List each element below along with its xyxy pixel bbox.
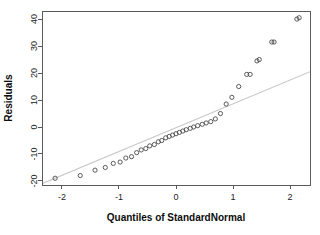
x-tick-label: 0 (173, 192, 178, 202)
data-point (213, 117, 217, 121)
qq-plot-figure: -2-1012-20-10010203040Quantiles of Stand… (0, 0, 320, 235)
data-point (218, 111, 222, 115)
data-point (230, 95, 234, 99)
data-point (196, 124, 200, 128)
data-point (78, 173, 82, 177)
y-tick-label: 40 (29, 14, 39, 24)
x-tick-label: -1 (115, 192, 123, 202)
y-tick-label: 10 (29, 95, 39, 105)
data-point (124, 156, 128, 160)
data-point (148, 144, 152, 148)
x-tick-label: 2 (288, 192, 293, 202)
data-point (103, 165, 107, 169)
data-point (118, 160, 122, 164)
plot-box-border (43, 12, 311, 186)
y-tick-label: 30 (29, 41, 39, 51)
x-tick-label: -2 (58, 192, 66, 202)
data-point (209, 120, 213, 124)
data-point (135, 151, 139, 155)
data-point (129, 155, 133, 159)
qq-plot-canvas: -2-1012-20-10010203040Quantiles of Stand… (0, 0, 320, 235)
data-point (224, 102, 228, 106)
y-tick-label: -10 (29, 147, 39, 160)
y-tick-label: 20 (29, 68, 39, 78)
data-point-group (53, 16, 301, 181)
x-tick-label: 1 (231, 192, 236, 202)
qq-reference-line (42, 72, 310, 184)
data-point (152, 142, 156, 146)
data-point (144, 146, 148, 150)
data-point (111, 161, 115, 165)
y-axis-title: Residuals (3, 74, 14, 122)
y-tick-label: 0 (29, 124, 39, 129)
data-point (139, 148, 143, 152)
y-tick-label: -20 (29, 174, 39, 187)
data-point (204, 121, 208, 125)
x-axis-title: Quantiles of StandardNormal (107, 212, 246, 223)
data-point (237, 84, 241, 88)
data-point (93, 168, 97, 172)
